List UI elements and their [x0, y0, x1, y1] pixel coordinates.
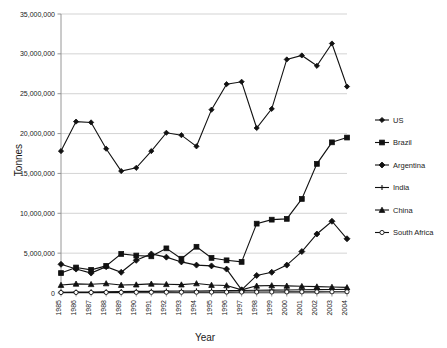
data-point — [163, 254, 169, 260]
data-point — [269, 269, 275, 275]
chart-legend: USBrazilArgentinaIndiaChinaSouth Africa — [375, 116, 434, 238]
data-point — [330, 290, 334, 294]
data-point — [330, 140, 335, 145]
x-tick-label: 1991 — [145, 300, 152, 316]
series-brazil — [59, 135, 350, 275]
data-point — [284, 216, 289, 221]
data-point — [315, 290, 319, 294]
x-tick-label: 1997 — [236, 300, 243, 316]
legend-item-south-africa[interactable]: South Africa — [375, 228, 434, 237]
legend-item-india[interactable]: India — [375, 183, 410, 192]
legend-label: China — [393, 206, 413, 215]
data-point — [73, 119, 78, 124]
legend-item-argentina[interactable]: Argentina — [375, 161, 426, 170]
data-point — [240, 290, 244, 294]
x-tick-label: 1985 — [55, 300, 62, 316]
data-point — [285, 290, 289, 294]
data-point — [58, 261, 64, 267]
y-tick-label: 15,000,000 — [20, 170, 55, 177]
y-tick-label: 30,000,000 — [20, 50, 55, 57]
x-tick-label: 2003 — [326, 300, 333, 316]
data-point — [344, 84, 349, 89]
x-tick-label: 2000 — [281, 300, 288, 316]
data-point — [119, 252, 124, 257]
y-tick-label: 35,000,000 — [20, 11, 55, 18]
y-tick-label: 25,000,000 — [20, 90, 55, 97]
legend-marker-icon — [380, 140, 385, 145]
data-point — [209, 263, 215, 269]
data-point — [254, 221, 259, 226]
series-line — [61, 43, 347, 171]
x-tick-label: 2004 — [341, 300, 348, 316]
x-tick-label: 1996 — [221, 300, 228, 316]
line-chart: 35,000,00030,000,00025,000,00020,000,000… — [0, 0, 447, 348]
data-point — [134, 290, 138, 294]
legend-marker-icon — [379, 162, 385, 168]
legend-marker-icon — [379, 117, 384, 122]
data-point — [89, 120, 94, 125]
legend-marker-icon — [380, 230, 384, 234]
chart-canvas: 35,000,00030,000,00025,000,00020,000,000… — [0, 0, 447, 348]
legend-label: US — [393, 116, 403, 125]
y-tick-label: 20,000,000 — [20, 130, 55, 137]
x-tick-label: 1999 — [266, 300, 273, 316]
data-point — [299, 197, 304, 202]
data-point — [209, 256, 214, 261]
x-tick-label: 1995 — [206, 300, 213, 316]
data-point — [270, 290, 274, 294]
legend-label: Argentina — [393, 161, 426, 170]
data-point — [314, 161, 319, 166]
data-point — [300, 290, 304, 294]
series-india — [58, 287, 349, 295]
data-point — [194, 290, 198, 294]
data-point — [74, 290, 78, 294]
data-point — [255, 290, 259, 294]
legend-item-brazil[interactable]: Brazil — [375, 138, 412, 147]
data-point — [104, 290, 108, 294]
x-tick-label: 1986 — [70, 300, 77, 316]
data-point — [58, 149, 63, 154]
data-point — [164, 290, 168, 294]
data-point — [194, 244, 199, 249]
data-point — [239, 79, 244, 84]
data-point — [345, 135, 350, 140]
data-point — [209, 107, 214, 112]
data-point — [224, 290, 228, 294]
data-point — [224, 258, 229, 263]
data-point — [59, 271, 64, 276]
data-point — [269, 217, 274, 222]
data-point — [239, 260, 244, 265]
data-point — [149, 290, 153, 294]
legend-marker-icon — [379, 185, 384, 190]
data-point — [89, 290, 93, 294]
data-point — [209, 290, 213, 294]
x-tick-label: 2001 — [296, 300, 303, 316]
y-axis-ticks: 35,000,00030,000,00025,000,00020,000,000… — [20, 11, 61, 297]
y-tick-label: 10,000,000 — [20, 210, 55, 217]
data-point — [59, 290, 63, 294]
x-tick-label: 1990 — [130, 300, 137, 316]
legend-label: Brazil — [393, 138, 412, 147]
x-tick-label: 2002 — [311, 300, 318, 316]
x-tick-label: 1994 — [190, 300, 197, 316]
y-tick-label: 0 — [51, 290, 55, 297]
x-axis-ticks: 1985198619871988198919901991199219931994… — [55, 293, 348, 316]
x-tick-label: 1998 — [251, 300, 258, 316]
data-point — [193, 262, 199, 268]
legend-label: India — [393, 183, 410, 192]
data-point — [119, 290, 123, 294]
x-axis-label: Year — [195, 332, 216, 343]
data-point — [284, 57, 289, 62]
y-axis-label: Tonnes — [13, 144, 24, 176]
x-tick-label: 1989 — [115, 300, 122, 316]
data-point — [179, 290, 183, 294]
series-layer — [58, 41, 350, 295]
gridlines — [61, 14, 347, 253]
series-line — [61, 221, 347, 290]
x-tick-label: 1988 — [100, 300, 107, 316]
legend-label: South Africa — [393, 228, 434, 237]
series-us — [58, 41, 349, 174]
legend-item-us[interactable]: US — [375, 116, 403, 125]
legend-item-china[interactable]: China — [375, 206, 413, 215]
y-tick-label: 5,000,000 — [24, 250, 55, 257]
